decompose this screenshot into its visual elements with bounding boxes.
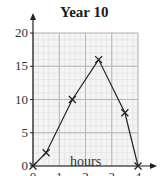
- x-axis-label: hours: [70, 154, 101, 170]
- line-chart: 0510152001234: [0, 0, 162, 176]
- x-tick-label: 0: [30, 169, 37, 176]
- y-tick-label: 15: [15, 58, 28, 73]
- x-tick-label: 2: [82, 169, 89, 176]
- y-tick-label: 20: [15, 25, 28, 40]
- y-axis-arrow-icon: [30, 13, 36, 20]
- x-axis-arrow-icon: [150, 163, 157, 169]
- y-tick-label: 5: [22, 125, 29, 140]
- x-tick-label: 3: [109, 169, 116, 176]
- x-tick-label: 1: [56, 169, 63, 176]
- y-tick-label: 0: [22, 158, 29, 173]
- y-tick-label: 10: [15, 92, 28, 107]
- x-tick-label: 4: [135, 169, 142, 176]
